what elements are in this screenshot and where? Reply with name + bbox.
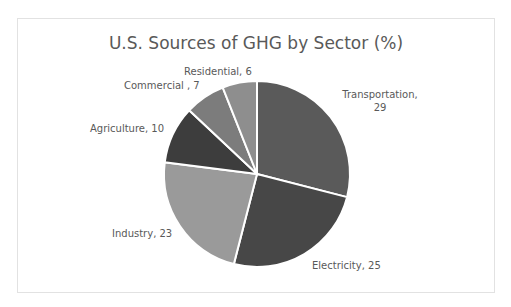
label-residential: Residential, 6	[184, 65, 252, 78]
label-industry: Industry, 23	[112, 227, 172, 240]
label-transportation-name: Transportation,	[340, 88, 420, 101]
pie-chart	[0, 0, 511, 307]
label-electricity: Electricity, 25	[312, 259, 381, 272]
label-transportation: Transportation, 29	[340, 88, 420, 114]
label-agriculture: Agriculture, 10	[90, 122, 164, 135]
label-transportation-value: 29	[340, 101, 420, 114]
label-commercial: Commercial , 7	[124, 79, 200, 92]
